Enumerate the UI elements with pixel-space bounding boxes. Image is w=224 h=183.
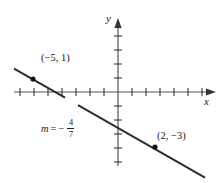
slope-fraction: 4 7 [67, 118, 74, 140]
data-point-b-label: (2, −3) [157, 131, 186, 142]
graph-canvas [0, 0, 224, 183]
y-axis-label: y [106, 13, 111, 24]
data-point-a [30, 76, 35, 81]
y-axis-arrowhead [114, 18, 121, 28]
x-axis-label: x [204, 96, 209, 107]
slope-annotation: m = − 4 7 [41, 118, 74, 140]
slope-equals-sign: = [51, 124, 57, 135]
plotted-line-segment-lower [78, 105, 205, 178]
coordinate-plane-figure: x y (−5, 1) (2, −3) m = − 4 7 [0, 0, 224, 183]
data-point-a-label: (−5, 1) [41, 53, 70, 64]
slope-denominator: 7 [68, 130, 75, 139]
slope-numerator: 4 [68, 118, 75, 127]
slope-variable: m [41, 124, 49, 135]
plotted-line-segment-upper [14, 69, 65, 98]
slope-negative-sign: − [59, 124, 65, 135]
data-point-b [152, 144, 157, 149]
